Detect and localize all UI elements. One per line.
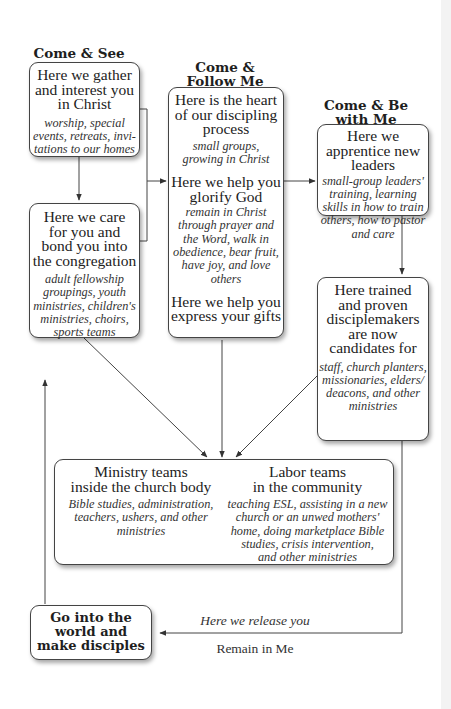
- box-sub-text: staff, church planters, missionaries, el…: [318, 361, 428, 414]
- box-main-text: Here we gather and interest you in Chris…: [30, 68, 139, 112]
- box-sub-text: small-group leaders' training, learning …: [318, 175, 428, 241]
- section-gifts-main: Here we help you express your gifts: [169, 295, 283, 324]
- box-sub-text: adult fellowship groupings, youth minist…: [30, 273, 139, 339]
- box-discipling-process: Here is the heart of our discipling proc…: [168, 87, 284, 338]
- ministry-teams-sub: Bible studies, administration, teachers,…: [61, 498, 221, 538]
- section-glorify-main: Here we help you glorify God: [169, 175, 283, 204]
- remain-label: Remain in Me: [195, 641, 315, 657]
- section-heart-main: Here is the heart of our discipling proc…: [169, 93, 283, 137]
- stage-heading-come-follow: Come & Follow Me: [160, 60, 290, 88]
- box-candidates: Here trained and proven disciplemakers a…: [317, 277, 429, 441]
- labor-teams-sub: teaching ESL, assisting in a new church …: [225, 498, 390, 564]
- box-apprentice-leaders: Here we apprentice new leaders small-gro…: [317, 124, 429, 216]
- section-glorify-sub: remain in Christ through prayer and the …: [169, 206, 283, 286]
- box-teams: Ministry teams inside the church body Bi…: [54, 459, 394, 565]
- stage-heading-come-see: Come & See: [22, 46, 136, 60]
- box-main-text: Here trained and proven disciplemakers a…: [318, 283, 428, 356]
- box-main-text: Here we apprentice new leaders: [318, 129, 428, 173]
- box-care-bond: Here we care for you and bond you into t…: [29, 203, 140, 338]
- release-label: Here we release you: [190, 613, 320, 629]
- labor-teams: Labor teams in the community teaching ES…: [225, 465, 390, 564]
- heading-text: Come & See: [33, 45, 124, 61]
- box-main-text: Here we care for you and bond you into t…: [30, 210, 139, 268]
- labor-teams-title: Labor teams in the community: [225, 465, 390, 494]
- stage-heading-come-be-with: Come & Be with Me: [316, 98, 416, 126]
- box-go-make-disciples: Go into the world and make disciples: [30, 605, 152, 660]
- ministry-teams-title: Ministry teams inside the church body: [61, 465, 221, 494]
- ministry-teams: Ministry teams inside the church body Bi…: [61, 465, 221, 538]
- section-heart-sub: small groups, growing in Christ: [169, 140, 283, 167]
- box-gather-interest: Here we gather and interest you in Chris…: [29, 62, 140, 157]
- box-sub-text: worship, special events, retreats, invi-…: [30, 117, 139, 157]
